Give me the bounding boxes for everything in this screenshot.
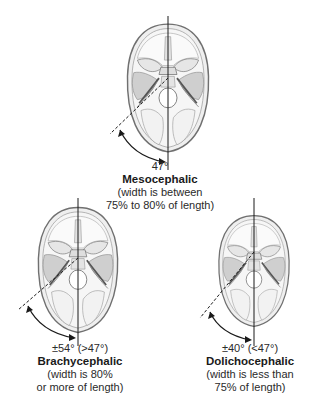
mesocephalic-angle: 47° <box>90 160 230 173</box>
dolichocephalic-desc-1: (width is less than <box>188 368 312 381</box>
brachycephalic-desc-2: or more of length) <box>10 381 150 394</box>
mesocephalic-skull <box>100 10 220 170</box>
brachycephalic-skull <box>0 196 150 346</box>
brachycephalic-caption: ±54° (>47°) Brachycephalic (width is 80%… <box>10 342 150 394</box>
dolichocephalic-label: Dolichocephalic <box>188 355 312 368</box>
dolichocephalic-desc-2: 75% of length) <box>188 381 312 394</box>
dolichocephalic-caption: ±40° (<47°) Dolichocephalic (width is le… <box>188 342 312 394</box>
brachycephalic-angle: ±54° (>47°) <box>10 342 150 355</box>
dolichocephalic-skull <box>172 196 312 346</box>
mesocephalic-label: Mesocephalic <box>90 173 230 186</box>
brachycephalic-desc-1: (width is 80% <box>10 368 150 381</box>
brachycephalic-label: Brachycephalic <box>10 355 150 368</box>
dolichocephalic-angle: ±40° (<47°) <box>188 342 312 355</box>
